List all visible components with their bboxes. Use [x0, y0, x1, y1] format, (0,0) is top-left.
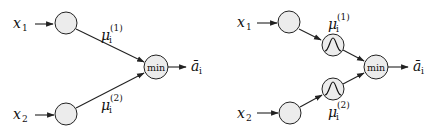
input-symbol: x: [237, 105, 245, 121]
input-symbol: x: [237, 14, 245, 30]
diagram-canvas: x 1 x 2 μ i (1) μ i (2) min: [0, 0, 440, 133]
output-subscript: i: [421, 66, 424, 76]
membership-node-2: [322, 78, 344, 100]
output-label: ā i: [413, 58, 424, 76]
input-subscript: 2: [22, 114, 28, 124]
min-label: min: [147, 62, 165, 73]
left-diagram: x 1 x 2 μ i (1) μ i (2) min: [13, 12, 202, 125]
mu-superscript: (2): [110, 93, 123, 103]
mu-superscript: (1): [110, 23, 123, 33]
input-node-2: [279, 102, 301, 124]
min-label: min: [367, 62, 385, 73]
mu-subscript: i: [336, 112, 339, 122]
input-subscript: 1: [246, 22, 252, 32]
edge-node1-to-gaussian1: [299, 29, 321, 40]
input-node-1: [278, 11, 300, 33]
input-node-1: [55, 12, 77, 34]
mu-subscript: i: [109, 35, 112, 45]
input-node-2: [55, 103, 77, 125]
mu-subscript: i: [109, 105, 112, 115]
edge-label-mu2: μ i (2): [328, 100, 350, 122]
mu-superscript: (2): [337, 100, 350, 110]
input-subscript: 2: [246, 113, 252, 123]
edge-label-mu1: μ i (1): [328, 12, 350, 34]
right-diagram: x 1 x 2 μ i (1) μ i: [237, 11, 424, 124]
edge-gaussian1-to-min: [343, 50, 364, 61]
edge-label-mu2: μ i (2): [101, 93, 123, 115]
input-label-x1: x 1: [13, 15, 28, 33]
edge-label-mu1: μ i (1): [101, 23, 123, 45]
edge-gaussian2-to-min: [343, 73, 364, 84]
membership-node-1: [322, 34, 344, 56]
input-label-x2: x 2: [13, 106, 28, 124]
input-subscript: 1: [22, 23, 28, 33]
mu-superscript: (1): [337, 12, 350, 22]
edge-node2-to-gaussian2: [300, 95, 322, 107]
input-symbol: x: [13, 106, 21, 122]
input-label-x2: x 2: [237, 105, 252, 123]
output-label: ā i: [191, 58, 202, 76]
output-subscript: i: [199, 66, 202, 76]
input-symbol: x: [13, 15, 21, 31]
input-label-x1: x 1: [237, 14, 252, 32]
mu-subscript: i: [336, 24, 339, 34]
